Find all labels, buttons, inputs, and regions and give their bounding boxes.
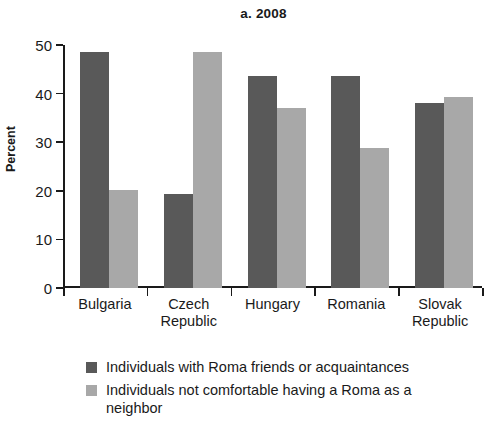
legend-item[interactable]: Individuals with Roma friends or acquain…: [86, 358, 481, 376]
y-tick-label-30: 30: [35, 134, 52, 151]
y-tick-label-50: 50: [35, 37, 52, 54]
legend-label: Individuals with Roma friends or acquain…: [106, 358, 409, 376]
x-tick-4: [398, 288, 400, 296]
x-tick-2: [231, 288, 233, 296]
y-tick-0: [56, 287, 63, 289]
y-tick-label-40: 40: [35, 85, 52, 102]
bar: [248, 76, 277, 288]
x-axis-label-line: Slovak: [392, 296, 487, 313]
x-axis-label-line: Republic: [392, 313, 487, 330]
x-tick-1: [147, 288, 149, 296]
bar-chart: a. 2008 Percent 01020304050 BulgariaCzec…: [0, 0, 487, 427]
x-axis-label: Romania: [308, 296, 404, 313]
bar: [80, 52, 109, 288]
y-tick-50: [56, 44, 63, 46]
x-axis-label-line: Czech: [141, 296, 237, 313]
bar: [277, 108, 306, 288]
x-axis-label: Bulgaria: [57, 296, 153, 313]
y-axis-title: Percent: [4, 126, 18, 172]
x-axis-label-line: Hungary: [225, 296, 321, 313]
x-axis-label: SlovakRepublic: [392, 296, 487, 330]
bar-group: [248, 45, 306, 288]
x-axis-label-line: Romania: [308, 296, 404, 313]
bar-group: [80, 45, 138, 288]
y-tick-label-20: 20: [35, 182, 52, 199]
x-axis-label: Hungary: [225, 296, 321, 313]
legend-swatch-icon: [86, 385, 97, 396]
legend-label: Individuals not comfortable having a Rom…: [106, 381, 458, 417]
bar-group: [331, 45, 389, 288]
y-tick-40: [56, 93, 63, 95]
y-tick-30: [56, 141, 63, 143]
y-tick-label-0: 0: [44, 280, 52, 297]
y-tick-label-10: 10: [35, 231, 52, 248]
bar: [109, 190, 138, 288]
x-axis-label-line: Republic: [141, 313, 237, 330]
x-tick-0: [63, 288, 65, 296]
legend-item[interactable]: Individuals not comfortable having a Rom…: [86, 381, 481, 417]
x-axis-label: CzechRepublic: [141, 296, 237, 330]
x-tick-5: [482, 288, 484, 296]
bar: [444, 97, 473, 288]
bar: [193, 52, 222, 288]
x-axis-label-line: Bulgaria: [57, 296, 153, 313]
y-axis-line: [63, 45, 65, 288]
y-tick-10: [56, 239, 63, 241]
chart-legend: Individuals with Roma friends or acquain…: [86, 358, 481, 422]
legend-swatch-icon: [86, 362, 97, 373]
chart-title: a. 2008: [0, 6, 487, 21]
plot-area: 01020304050: [63, 45, 482, 288]
bar-group: [415, 45, 473, 288]
y-tick-20: [56, 190, 63, 192]
bar: [415, 103, 444, 288]
bar: [164, 194, 193, 288]
bar-group: [164, 45, 222, 288]
bar: [331, 76, 360, 288]
bar: [360, 148, 389, 288]
x-tick-3: [314, 288, 316, 296]
